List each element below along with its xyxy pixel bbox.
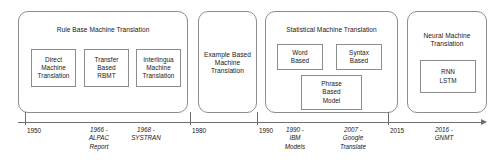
tech-box-interlingua-machine-translation: Interlingua Machine Translation [136,49,181,87]
era-title-example-based: Example Based Machine Translation [199,51,256,76]
timeline-tick-label-1950: 1950 [27,127,41,135]
timeline-tick-label-2015: 2015 [390,127,404,135]
timeline-tick-label-1990: 1990 [259,127,273,135]
tech-label-transfer-based-rbmt: Transfer Based RBMT [95,56,119,80]
tech-box-transfer-based-rbmt: Transfer Based RBMT [84,49,129,87]
tech-label-interlingua-machine-translation: Interlingua Machine Translation [143,56,175,80]
era-title-statistical: Statistical Machine Translation [266,26,397,34]
timeline-event-systran: 1968 - SYSTRAN [131,126,161,143]
timeline-axis-line [18,122,483,123]
timeline-tick-1950 [25,112,26,125]
tech-label-word-based: Word Based [291,49,309,65]
era-rule-base-machine-translation: Rule Base Machine Translation Direct Mac… [18,11,188,113]
timeline-tick-1980 [190,112,191,125]
tech-box-syntax-based: Syntax Based [336,44,382,70]
mt-history-timeline-diagram: Rule Base Machine Translation Direct Mac… [0,0,497,160]
tech-box-direct-machine-translation: Direct Machine Translation [31,49,76,87]
era-statistical-machine-translation: Statistical Machine Translation Word Bas… [265,11,398,113]
tech-label-syntax-based: Syntax Based [349,49,369,65]
timeline-tick-label-1980: 1980 [192,127,206,135]
era-title-neural: Neural Machine Translation [408,32,486,48]
tech-box-phrase-based-model: Phrase Based Model [301,75,362,110]
timeline-event-google-translate: 2007 - Google Translate [340,126,366,151]
era-title-rule-base: Rule Base Machine Translation [19,26,187,34]
timeline-tick-1990 [257,112,258,125]
timeline-event-ibm-models: 1990 - IBM Models [285,126,305,151]
timeline-tick-2015 [388,112,389,125]
tech-box-word-based: Word Based [277,44,323,70]
era-neural-machine-translation: Neural Machine Translation RNN LSTM [407,11,487,113]
era-example-based-machine-translation: Example Based Machine Translation [198,11,257,113]
tech-box-rnn-lstm: RNN LSTM [420,60,476,93]
tech-label-rnn-lstm: RNN LSTM [439,68,456,84]
timeline-arrow-icon [481,119,487,125]
timeline-event-alpac-report: 1966 - ALPAC Report [89,126,109,151]
timeline-event-gnmt: 2016 - GNMT [435,126,454,143]
tech-label-phrase-based-model: Phrase Based Model [321,80,342,104]
tech-label-direct-machine-translation: Direct Machine Translation [38,56,70,80]
